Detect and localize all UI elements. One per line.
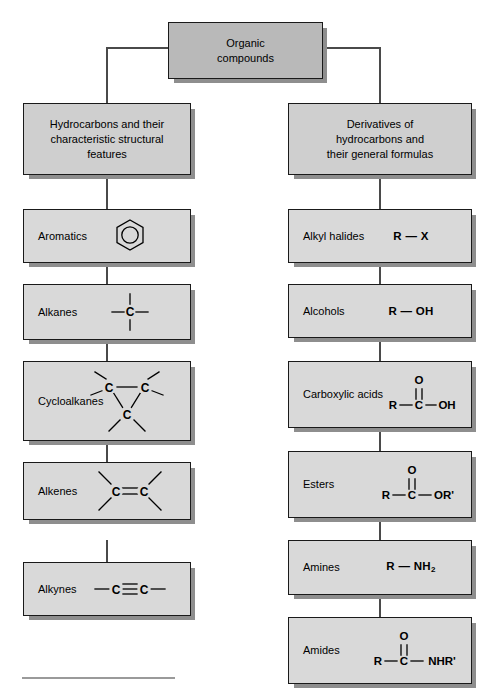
formula-alkyl-halides: R — X — [363, 210, 459, 262]
atom-carbon-label: C — [112, 485, 121, 499]
hydrocarbons-line-1: Hydrocarbons and their — [50, 117, 164, 132]
formula-carboxylic-acids: R C O OH — [385, 362, 463, 427]
root-line-1: Organic — [217, 36, 274, 51]
node-derivatives-text: Derivatives of hydrocarbons and their ge… — [327, 117, 433, 162]
node-esters[interactable]: Esters R C O OR' — [288, 451, 472, 518]
atom-carbon-label: C — [112, 583, 121, 597]
formula-amines: R — NH2 — [363, 541, 459, 594]
diagram-canvas: Organic compounds Hydrocarbons and their… — [0, 0, 490, 688]
atom-carbon-label: C — [400, 655, 408, 667]
formula-alcohols: R — OH — [363, 285, 459, 337]
node-esters-label: Esters — [303, 477, 334, 492]
connector-right-spine-5 — [379, 518, 381, 540]
connector-right-spine-3 — [379, 339, 381, 361]
node-organic-compounds-text: Organic compounds — [217, 36, 274, 66]
atom-carbon-label: C — [140, 485, 149, 499]
node-carboxylic-acids-label: Carboxylic acids — [303, 387, 383, 402]
formula-amides-r: R — [374, 655, 383, 667]
formula-esters-o: O — [408, 464, 417, 476]
connector-left-spine-5 — [106, 540, 108, 562]
structure-cyclopropane: C C C — [76, 362, 178, 440]
node-amides[interactable]: Amides R C O NHR' — [288, 617, 472, 684]
formula-amides: R C O NHR' — [369, 618, 465, 683]
connector-left-spine-3 — [106, 339, 108, 362]
atom-carbon-label: C — [126, 305, 135, 319]
formula-carboxylic-acids-r: R — [389, 399, 398, 411]
atom-carbon-label: C — [415, 399, 423, 411]
atom-carbon-label: C — [408, 489, 416, 501]
node-alkynes-label: Alkynes — [38, 582, 77, 597]
connector-right-spine-1 — [379, 174, 381, 210]
structure-sp3-carbon: C — [82, 285, 178, 339]
footer-divider — [22, 677, 175, 679]
formula-amines-text: R — NH2 — [386, 559, 435, 577]
formula-carboxylic-acids-oh: OH — [438, 399, 455, 411]
node-aromatics-label: Aromatics — [38, 229, 87, 244]
node-alkynes[interactable]: Alkynes C C — [23, 562, 191, 616]
atom-carbon-label: C — [141, 381, 150, 395]
hydrocarbons-line-2: characteristic structural — [50, 132, 164, 147]
node-alkanes[interactable]: Alkanes C — [23, 284, 191, 340]
derivatives-line-1: Derivatives of — [327, 117, 433, 132]
formula-esters-or: OR' — [434, 489, 454, 501]
connector-right-spine-2 — [379, 262, 381, 284]
node-carboxylic-acids[interactable]: Carboxylic acids R C O OH — [288, 361, 472, 428]
structure-benzene-ring — [82, 210, 178, 262]
formula-amines-base: R — NH — [386, 560, 431, 572]
node-amines-label: Amines — [303, 560, 340, 575]
node-alkenes-label: Alkenes — [38, 484, 77, 499]
node-alkanes-label: Alkanes — [38, 305, 77, 320]
node-derivatives-category[interactable]: Derivatives of hydrocarbons and their ge… — [288, 103, 472, 175]
formula-esters-r: R — [382, 489, 391, 501]
structure-double-bond-cc: C C — [82, 463, 178, 519]
connector-left-spine-2 — [106, 262, 108, 284]
atom-carbon-label: C — [123, 408, 132, 422]
connector-left-spine-4 — [106, 440, 108, 462]
derivatives-line-3: their general formulas — [327, 147, 433, 162]
connector-left-spine-1 — [106, 174, 108, 210]
atom-carbon-label: C — [105, 381, 114, 395]
node-hydrocarbons-category[interactable]: Hydrocarbons and their characteristic st… — [23, 103, 191, 175]
structure-triple-bond-cc: C C — [82, 563, 178, 615]
formula-amines-subscript: 2 — [431, 565, 436, 574]
node-alcohols-label: Alcohols — [303, 304, 345, 319]
node-hydrocarbons-text: Hydrocarbons and their characteristic st… — [50, 117, 164, 162]
node-aromatics[interactable]: Aromatics — [23, 209, 191, 263]
hydrocarbons-line-3: features — [50, 147, 164, 162]
node-cycloalkanes[interactable]: Cycloalkanes C C — [23, 361, 191, 441]
atom-carbon-label: C — [140, 583, 149, 597]
connector-right-spine-4 — [379, 429, 381, 451]
formula-alcohols-text: R — OH — [388, 304, 433, 319]
formula-esters: R C O OR' — [377, 452, 463, 517]
node-alkenes[interactable]: Alkenes C C — [23, 462, 191, 520]
formula-alkyl-halides-text: R — X — [393, 229, 428, 244]
node-alcohols[interactable]: Alcohols R — OH — [288, 284, 472, 338]
derivatives-line-2: hydrocarbons and — [327, 132, 433, 147]
connector-left-trunk — [106, 47, 108, 108]
formula-carboxylic-acids-o: O — [415, 374, 424, 386]
formula-amides-nhr: NHR' — [428, 655, 456, 667]
node-organic-compounds[interactable]: Organic compounds — [168, 22, 323, 79]
node-amides-label: Amides — [303, 643, 340, 658]
root-line-2: compounds — [217, 51, 274, 66]
node-alkyl-halides[interactable]: Alkyl halides R — X — [288, 209, 472, 263]
formula-amides-o: O — [400, 630, 409, 642]
connector-right-trunk — [379, 47, 381, 108]
node-alkyl-halides-label: Alkyl halides — [303, 229, 364, 244]
node-amines[interactable]: Amines R — NH2 — [288, 540, 472, 595]
connector-right-spine-6 — [379, 595, 381, 617]
